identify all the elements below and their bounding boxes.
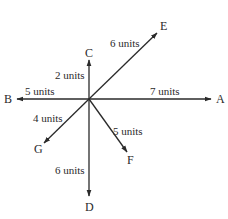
vector-diagram: A7 unitsB5 unitsC2 unitsD6 unitsE6 units… [0,0,228,219]
labels-group: A7 unitsB5 unitsC2 unitsD6 unitsE6 units… [4,19,225,214]
point-label-e: E [160,19,167,33]
point-label-b: B [4,92,12,106]
point-label-d: D [85,200,94,214]
length-label-d: 6 units [55,164,85,176]
point-label-f: F [127,153,134,167]
length-label-e: 6 units [110,37,140,49]
length-label-f: 5 units [113,125,143,137]
point-label-c: C [85,46,93,60]
length-label-c: 2 units [55,69,85,81]
length-label-a: 7 units [150,85,180,97]
point-label-a: A [216,92,225,106]
length-label-b: 5 units [25,85,55,97]
point-label-g: G [34,142,43,156]
length-label-g: 4 units [33,112,63,124]
